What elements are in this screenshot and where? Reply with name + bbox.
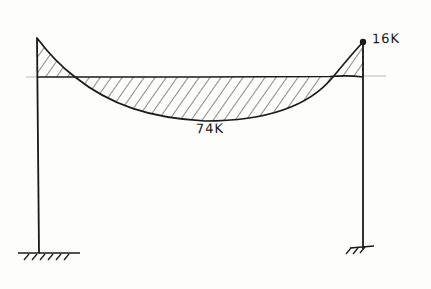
moment-diagram-drawing [0, 0, 431, 289]
frame-diagram: 74K 16K [0, 0, 431, 289]
beam-line [37, 76, 363, 77]
right-joint-dot-icon [360, 39, 366, 45]
left-fixed-support-icon [18, 253, 80, 260]
right-fixed-support-icon [346, 246, 374, 254]
right-end-moment-label: 16K [372, 32, 400, 45]
midspan-moment-label: 74K [196, 122, 224, 135]
